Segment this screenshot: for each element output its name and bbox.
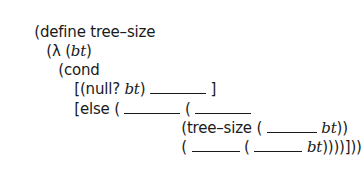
closing-parens: ))))])): [322, 138, 362, 156]
fill-in-blank: [254, 139, 302, 152]
paren: (: [240, 138, 255, 156]
code-line-final: ( ( bt))))])): [163, 120, 362, 174]
paren: (: [181, 138, 191, 156]
else-text: [else (: [74, 100, 124, 118]
fill-in-blank: [192, 139, 240, 152]
variable-bt: bt: [307, 138, 322, 156]
